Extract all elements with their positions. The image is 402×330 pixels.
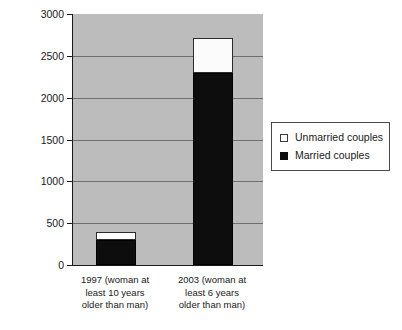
y-tick-label-2000: 2000 — [4, 93, 64, 103]
legend-swatch-married-icon — [280, 152, 288, 160]
plot-area — [72, 14, 263, 266]
y-tick-label-500: 500 — [4, 218, 64, 228]
y-tick-label-3000: 3000 — [4, 9, 64, 19]
gridline-1000 — [73, 181, 263, 182]
y-tick-label-2500: 2500 — [4, 51, 64, 61]
bar-segment-married-2003[interactable] — [193, 73, 233, 265]
legend-label-married: Married couples — [295, 150, 370, 161]
legend-item-married-couples[interactable]: Married couples — [280, 148, 383, 163]
bar-segment-unmarried-2003[interactable] — [193, 38, 233, 73]
gridline-2500 — [73, 56, 263, 57]
gridline-2000 — [73, 98, 263, 99]
gridline-500 — [73, 223, 263, 224]
legend: Unmarried couples Married couples — [271, 122, 390, 171]
x-axis-label-2003: 2003 (woman at least 6 years older than … — [152, 274, 272, 312]
legend-item-unmarried-couples[interactable]: Unmarried couples — [280, 130, 383, 145]
bar-segment-married-1997[interactable] — [96, 240, 136, 265]
y-tick-label-1000: 1000 — [4, 176, 64, 186]
legend-swatch-unmarried-icon — [280, 134, 288, 142]
gridline-1500 — [73, 140, 263, 141]
legend-label-unmarried: Unmarried couples — [295, 132, 383, 143]
bar-segment-unmarried-1997[interactable] — [96, 232, 136, 240]
y-tick-label-1500: 1500 — [4, 135, 64, 145]
stacked-bar-chart: Number of Couples (in thousands) 3000 25… — [0, 0, 402, 330]
y-tick-label-0: 0 — [4, 260, 64, 270]
